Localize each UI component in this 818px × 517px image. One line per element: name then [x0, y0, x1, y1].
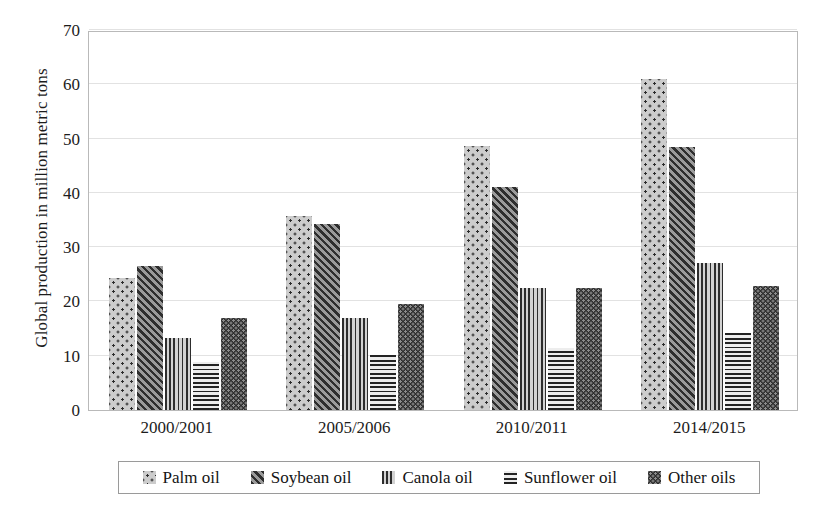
bar-palm-oil-2005-2006[interactable]	[286, 216, 312, 410]
y-tick-label-20: 20	[40, 293, 80, 310]
bar-sunflower-oil-2014-2015[interactable]	[725, 333, 751, 410]
legend-label: Palm oil	[163, 469, 220, 486]
legend-label: Canola oil	[402, 469, 472, 486]
x-tick-label-2005-2006: 2005/2006	[294, 417, 414, 439]
legend-item-palm-oil[interactable]: Palm oil	[143, 469, 220, 486]
y-axis-tick-labels: 010203040506070	[36, 0, 80, 517]
chart-figure: Global production in million metric tons…	[0, 0, 818, 517]
legend-label: Other oils	[668, 469, 736, 486]
y-tick-label-70: 70	[40, 22, 80, 39]
bar-sunflower-oil-2005-2006[interactable]	[370, 355, 396, 410]
bar-layer	[89, 32, 797, 410]
bar-canola-oil-2000-2001[interactable]	[165, 338, 191, 410]
bar-group-2005-2006	[286, 32, 424, 410]
legend-item-sunflower-oil[interactable]: Sunflower oil	[504, 469, 617, 486]
x-tick-label-2010-2011: 2010/2011	[472, 417, 592, 439]
y-tick-label-10: 10	[40, 348, 80, 365]
bar-canola-oil-2014-2015[interactable]	[697, 263, 723, 410]
y-tick-label-50: 50	[40, 131, 80, 148]
bar-palm-oil-2014-2015[interactable]	[641, 79, 667, 410]
soybean-oil-swatch-icon	[251, 471, 264, 484]
gridline	[89, 29, 797, 30]
bar-other-oils-2010-2011[interactable]	[576, 288, 602, 410]
x-axis-tick-labels: 2000/20012005/20062010/20112014/2015	[88, 417, 798, 443]
other-oils-swatch-icon	[648, 471, 661, 484]
legend-item-other-oils[interactable]: Other oils	[648, 469, 736, 486]
x-tick-label-2014-2015: 2014/2015	[649, 417, 769, 439]
bar-canola-oil-2005-2006[interactable]	[342, 318, 368, 410]
bar-other-oils-2014-2015[interactable]	[753, 286, 779, 410]
bar-canola-oil-2010-2011[interactable]	[520, 288, 546, 410]
sunflower-oil-swatch-icon	[504, 471, 517, 484]
bar-soybean-oil-2000-2001[interactable]	[137, 266, 163, 410]
legend-item-canola-oil[interactable]: Canola oil	[382, 469, 472, 486]
bar-group-2010-2011	[464, 32, 602, 410]
bar-palm-oil-2010-2011[interactable]	[464, 146, 490, 410]
y-tick-label-40: 40	[40, 185, 80, 202]
bar-soybean-oil-2014-2015[interactable]	[669, 147, 695, 410]
bar-group-2014-2015	[641, 32, 779, 410]
bar-palm-oil-2000-2001[interactable]	[109, 278, 135, 410]
bar-other-oils-2000-2001[interactable]	[221, 318, 247, 410]
plot-area	[88, 31, 798, 411]
legend-item-soybean-oil[interactable]: Soybean oil	[251, 469, 352, 486]
legend-label: Sunflower oil	[524, 469, 617, 486]
bar-sunflower-oil-2000-2001[interactable]	[193, 362, 219, 410]
palm-oil-swatch-icon	[143, 471, 156, 484]
bar-soybean-oil-2005-2006[interactable]	[314, 224, 340, 410]
y-tick-label-30: 30	[40, 239, 80, 256]
y-tick-label-60: 60	[40, 76, 80, 93]
canola-oil-swatch-icon	[382, 471, 395, 484]
x-tick-label-2000-2001: 2000/2001	[117, 417, 237, 439]
bar-sunflower-oil-2010-2011[interactable]	[548, 348, 574, 410]
legend-label: Soybean oil	[271, 469, 352, 486]
bar-soybean-oil-2010-2011[interactable]	[492, 187, 518, 410]
bar-group-2000-2001	[109, 32, 247, 410]
bar-other-oils-2005-2006[interactable]	[398, 304, 424, 410]
chart-legend: Palm oilSoybean oilCanola oilSunflower o…	[118, 461, 760, 494]
y-tick-label-0: 0	[40, 402, 80, 419]
